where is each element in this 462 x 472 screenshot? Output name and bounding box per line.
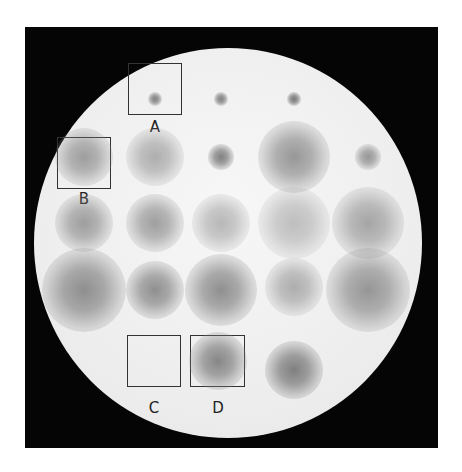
- zone-spot: [126, 194, 184, 252]
- zone-spot: [258, 121, 330, 193]
- zone-spot: [208, 144, 234, 170]
- box-c: [127, 335, 181, 387]
- label-d: D: [212, 399, 224, 417]
- zone-spot: [265, 258, 323, 316]
- zone-spot: [189, 332, 247, 390]
- zone-spot: [126, 261, 184, 319]
- zone-spot: [287, 92, 301, 106]
- label-c: C: [149, 399, 159, 417]
- box-a: [128, 63, 182, 115]
- zone-spot: [258, 187, 330, 259]
- zone-spot: [214, 92, 228, 106]
- zone-spot: [148, 92, 162, 106]
- zone-spot: [265, 341, 323, 399]
- zone-spot: [55, 128, 113, 186]
- zone-spot: [55, 194, 113, 252]
- zone-spot: [355, 144, 381, 170]
- zone-spot: [42, 248, 126, 332]
- zone-spot: [185, 254, 257, 326]
- zone-spot: [192, 194, 250, 252]
- zone-spot: [326, 248, 410, 332]
- zone-spot: [126, 128, 184, 186]
